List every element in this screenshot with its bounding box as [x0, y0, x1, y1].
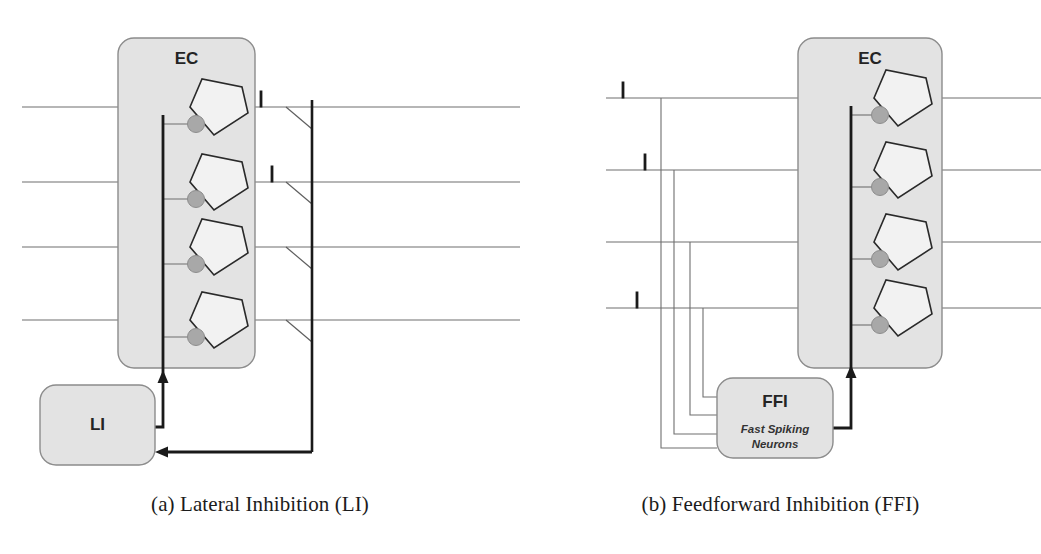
ffi-box-label: FFI	[762, 392, 788, 411]
axon-lines-group	[22, 107, 520, 320]
region-box-li: LI	[40, 385, 155, 465]
panel-a-caption: (a) Lateral Inhibition (LI)	[0, 492, 520, 517]
ffi-box-sublabel-line1: Fast Spiking	[741, 423, 809, 435]
inhibitory-synapse-3	[872, 251, 889, 268]
feedforward-branch-1	[661, 98, 717, 448]
inhibitory-synapse-4	[872, 317, 889, 334]
feedforward-branch-2	[674, 170, 717, 434]
panel-feedforward-inhibition: EC FFI Fast Spiking Neurons (b) Feedforw…	[520, 0, 1041, 554]
ec-box-label: EC	[175, 49, 199, 68]
ec-box-label: EC	[858, 49, 882, 68]
figure-root: EC LI	[0, 0, 1041, 554]
feedforward-branch-4	[703, 308, 717, 397]
li-box-label: LI	[90, 415, 105, 434]
panel-a-diagram: EC LI	[0, 0, 520, 490]
ffi-to-ec-inhibitory-path	[833, 374, 851, 428]
inhibitory-synapse-2	[188, 191, 205, 208]
li-to-ec-arrowhead	[158, 370, 169, 383]
inhibitory-synapse-1	[872, 107, 889, 124]
inhibitory-synapse-1	[188, 116, 205, 133]
inhibitory-synapse-3	[188, 256, 205, 273]
inhibitory-synapse-2	[872, 179, 889, 196]
ffi-box-sublabel-line2: Neurons	[752, 438, 799, 450]
inhibitory-synapse-4	[188, 329, 205, 346]
panel-b-diagram: EC FFI Fast Spiking Neurons	[520, 0, 1041, 490]
panel-lateral-inhibition: EC LI	[0, 0, 520, 554]
panel-b-caption: (b) Feedforward Inhibition (FFI)	[520, 492, 1041, 517]
feedforward-branches-group	[661, 98, 717, 448]
spike-markers-group	[623, 82, 645, 309]
axon-tap-4	[286, 320, 312, 342]
spike-markers-group	[261, 91, 272, 183]
axon-tap-2	[286, 182, 312, 204]
feedback-arrow-group	[155, 447, 312, 458]
collector-line-group	[286, 100, 312, 452]
axon-tap-3	[286, 247, 312, 269]
axon-tap-1	[286, 107, 312, 129]
region-box-ffi: FFI Fast Spiking Neurons	[717, 378, 833, 458]
ec-to-li-arrowhead	[155, 447, 168, 458]
li-to-ec-inhibitory-path	[155, 379, 163, 427]
